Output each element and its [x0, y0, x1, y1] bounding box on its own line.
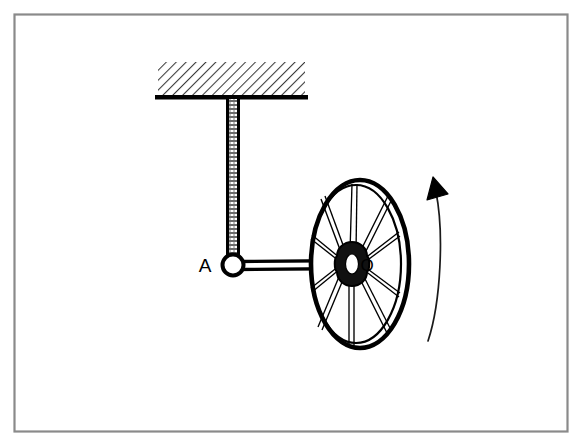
rotating-wheel-group: O	[311, 180, 409, 348]
vertical-rod-body	[228, 99, 238, 261]
physics-diagram-figure: A	[0, 0, 583, 445]
pin-joint-a-circle	[223, 255, 244, 276]
diagram-canvas: A	[0, 0, 583, 445]
ceiling-baseline	[155, 95, 308, 100]
label-a: A	[199, 255, 212, 276]
vertical-hanger-rod-group	[228, 99, 239, 262]
ceiling-hatch-block	[158, 62, 305, 96]
wheel-hub-bore	[346, 254, 359, 274]
label-o: O	[360, 256, 373, 275]
ceiling-support-group	[155, 62, 308, 100]
